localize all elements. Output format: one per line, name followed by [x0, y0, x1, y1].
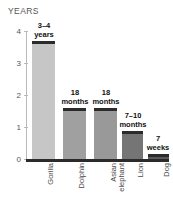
bar-cap-lion [122, 131, 143, 134]
y-tick-mark-3 [24, 63, 28, 64]
bar-value-label-lion: 7–10 months [117, 112, 149, 129]
category-label-asian-elephant: Asian elephant [110, 163, 126, 207]
bar-value-label-dog: 7 weeks [143, 135, 173, 152]
bar-unit-dolphin: months [59, 98, 91, 107]
bar-lion[interactable] [122, 131, 143, 159]
bar-cap-asian-elephant [94, 108, 117, 111]
y-tick-mark-2 [24, 95, 28, 96]
bar-value-label-gorilla: 3–4 years [28, 22, 60, 39]
bar-unit-gorilla: years [28, 31, 60, 40]
x-axis-baseline [26, 159, 169, 162]
bar-unit-lion: months [117, 121, 149, 130]
bar-gorilla[interactable] [32, 41, 55, 159]
category-label-dog: Dog [163, 163, 171, 177]
bar-value-label-dolphin: 18 months [59, 89, 91, 106]
y-tick-label-3: 3 [6, 59, 21, 68]
bar-cap-gorilla [32, 41, 55, 44]
bar-chart: YEARS 4 3 2 1 0 3–4 years 18 months 18 m… [0, 0, 173, 212]
y-tick-mark-1 [24, 127, 28, 128]
category-label-dolphin: Dolphin [78, 163, 86, 188]
bar-asian-elephant[interactable] [94, 108, 117, 159]
bar-cap-dolphin [63, 108, 86, 111]
bar-cap-dog [148, 154, 169, 157]
y-tick-label-1: 1 [6, 123, 21, 132]
category-label-gorilla: Gorilla [47, 163, 55, 185]
bar-dolphin[interactable] [63, 108, 86, 159]
y-tick-label-2: 2 [6, 91, 21, 100]
bar-unit-asian-elephant: months [90, 98, 122, 107]
bar-unit-dog: weeks [143, 144, 173, 153]
y-tick-label-4: 4 [6, 27, 21, 36]
y-axis-unit-title: YEARS [8, 6, 39, 16]
category-label-lion: Lion [137, 163, 145, 177]
bar-value-label-asian-elephant: 18 months [90, 89, 122, 106]
y-tick-label-0: 0 [6, 155, 21, 164]
